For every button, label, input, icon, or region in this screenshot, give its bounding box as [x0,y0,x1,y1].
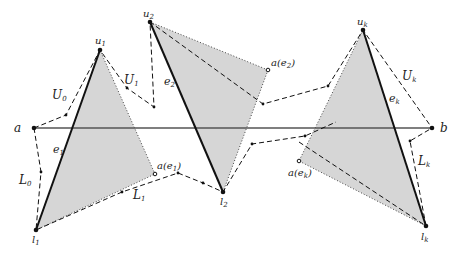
label-L1: L1 [132,188,145,203]
label-U1: U1 [124,73,139,88]
triangle-e1 [36,50,155,230]
apex-a-ek [297,159,301,163]
vertex-b [430,126,435,131]
vertex-l1 [34,228,39,233]
label-a-ek: a(ek) [288,167,312,180]
label-b: b [440,121,448,135]
vertex-a [32,126,37,131]
label-l2: l2 [220,196,228,209]
label-uk: uk [357,16,368,29]
label-a: a [14,121,21,135]
label-u1: u1 [95,35,106,48]
label-Lk: Lk [417,154,430,169]
diagram-canvas: a b u1 u2 uk l1 l2 lk e1 e2 ek U0 U1 Uk … [0,0,463,259]
label-lk: lk [421,231,428,244]
vertex-lk [424,224,429,229]
label-L0: L0 [18,173,32,188]
label-l1: l1 [32,234,40,247]
apex-a-e1 [153,172,157,176]
label-e1: e1 [53,143,64,157]
label-Uk: Uk [402,69,416,84]
vertex-u1 [98,48,103,53]
shaded-regions [36,22,426,230]
label-a-e2: a(e2) [271,57,295,70]
label-a-e1: a(e1) [157,160,181,173]
label-ek: ek [389,92,400,106]
vertex-l2 [221,190,226,195]
label-U0: U0 [52,88,67,103]
label-u2: u2 [143,8,154,21]
apex-a-e2 [266,68,270,72]
